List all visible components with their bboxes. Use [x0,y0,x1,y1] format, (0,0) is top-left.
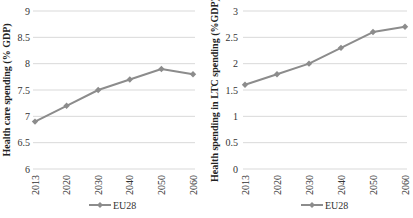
series-line [245,27,405,85]
diamond-marker-icon [127,76,133,82]
x-tick-label: 2040 [124,175,135,195]
series-eu28 [242,24,408,88]
legend-diamond-icon [97,202,103,208]
series-line [35,69,193,122]
y-tick-label: 1 [233,111,238,122]
legend-label: EU28 [325,200,348,211]
diamond-marker-icon [370,29,376,35]
y-axis-ticks: 66.577.588.59 [18,6,31,175]
diamond-marker-icon [63,103,69,109]
diamond-marker-icon [158,66,164,72]
y-tick-label: 6.5 [18,137,31,148]
x-tick-label: 2020 [61,175,72,195]
y-tick-label: 3 [233,6,238,17]
x-axis-ticks: 201320202030204020502060 [240,175,411,195]
x-tick-label: 2060 [400,175,411,195]
y-tick-label: 8 [25,58,30,69]
gridlines [243,11,407,169]
y-tick-label: 9 [25,6,30,17]
diamond-marker-icon [306,60,312,66]
y-axis-ticks: 00.511.522.53 [226,6,239,175]
legend: EU28 [89,200,136,211]
diamond-marker-icon [274,71,280,77]
legend-diamond-icon [309,202,315,208]
y-tick-label: 2.5 [226,32,239,43]
y-axis-label: Health care spending (% GDP) [1,23,13,156]
x-tick-label: 2020 [272,175,283,195]
x-tick-label: 2013 [30,175,41,195]
diamond-marker-icon [338,45,344,51]
y-tick-label: 7.5 [18,85,31,96]
diamond-marker-icon [242,82,248,88]
x-tick-label: 2050 [368,175,379,195]
x-tick-label: 2040 [336,175,347,195]
diamond-marker-icon [95,87,101,93]
legend-label: EU28 [113,200,136,211]
y-tick-label: 2 [233,58,238,69]
y-axis-label: Health spending in LTC spending (%GDP) [209,0,221,182]
chart-figure: 66.577.588.59201320202030204020502060Hea… [0,0,413,218]
x-tick-label: 2013 [240,175,251,195]
y-tick-label: 1.5 [226,85,239,96]
legend: EU28 [301,200,348,211]
y-tick-label: 0 [233,164,238,175]
x-tick-label: 2030 [93,175,104,195]
y-tick-label: 6 [25,164,30,175]
x-axis-ticks: 201320202030204020502060 [30,175,199,195]
y-tick-label: 7 [25,111,30,122]
y-tick-label: 0.5 [226,137,239,148]
x-tick-label: 2060 [188,175,199,195]
charts-canvas: 66.577.588.59201320202030204020502060Hea… [0,0,413,218]
diamond-marker-icon [402,24,408,30]
y-tick-label: 8.5 [18,32,31,43]
diamond-marker-icon [32,118,38,124]
x-tick-label: 2050 [156,175,167,195]
health-care-chart: 66.577.588.59201320202030204020502060Hea… [1,6,199,211]
diamond-marker-icon [190,71,196,77]
x-tick-label: 2030 [304,175,315,195]
ltc-chart: 00.511.522.53201320202030204020502060Hea… [209,0,411,211]
gridlines [33,11,195,169]
